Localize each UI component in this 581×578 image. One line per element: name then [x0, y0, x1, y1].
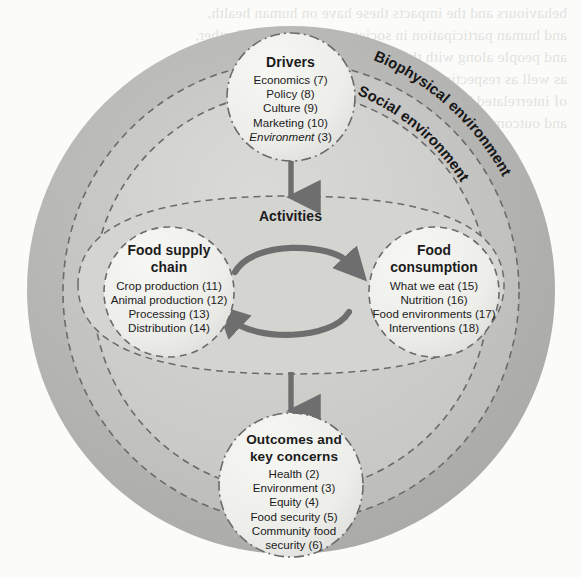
activities-label-group: Activities [231, 208, 350, 225]
list-item: Animal production (12) [96, 293, 242, 307]
list-item: Marketing (10) [231, 116, 350, 130]
list-item: Policy (8) [231, 87, 350, 101]
list-item: Environment (3) [231, 130, 350, 144]
node-food-supply-chain[interactable]: Food supply chain Crop production (11) A… [96, 243, 242, 335]
list-item: Economics (7) [231, 73, 350, 87]
list-item: Equity (4) [230, 495, 358, 509]
node-food-supply-chain-items: Crop production (11) Animal production (… [96, 279, 242, 336]
node-food-supply-chain-title-line2: chain [96, 260, 242, 277]
list-item: security (6) [230, 538, 358, 552]
list-item: Nutrition (16) [358, 293, 510, 307]
node-drivers[interactable]: Drivers Economics (7) Policy (8) Culture… [231, 54, 350, 144]
node-outcomes-items: Health (2) Environment (3) Equity (4) Fo… [230, 467, 358, 552]
list-item: Culture (9) [231, 101, 350, 115]
list-item: Crop production (11) [96, 279, 242, 293]
list-item: Environment (3) [230, 481, 358, 495]
list-item: Food environments (17) [358, 307, 510, 321]
node-outcomes-title-line1: Outcomes and [230, 432, 358, 449]
food-system-diagram: behaviours and the impacts these have on… [0, 0, 581, 578]
node-drivers-title: Drivers [231, 54, 350, 71]
list-item: What we eat (15) [358, 279, 510, 293]
node-food-consumption-title-line1: Food [358, 243, 510, 260]
list-item: Interventions (18) [358, 321, 510, 335]
node-drivers-items: Economics (7) Policy (8) Culture (9) Mar… [231, 73, 350, 144]
node-food-consumption[interactable]: Food consumption What we eat (15) Nutrit… [358, 243, 510, 335]
list-item: Distribution (14) [96, 321, 242, 335]
activities-label: Activities [231, 208, 350, 225]
node-outcomes[interactable]: Outcomes and key concerns Health (2) Env… [230, 432, 358, 552]
list-item: Food security (5) [230, 510, 358, 524]
node-outcomes-title-line2: key concerns [230, 449, 358, 466]
node-food-consumption-items: What we eat (15) Nutrition (16) Food env… [358, 279, 510, 336]
list-item: Community food [230, 524, 358, 538]
list-item: Health (2) [230, 467, 358, 481]
node-food-supply-chain-title-line1: Food supply [96, 243, 242, 260]
node-food-consumption-title-line2: consumption [358, 260, 510, 277]
list-item: Processing (13) [96, 307, 242, 321]
